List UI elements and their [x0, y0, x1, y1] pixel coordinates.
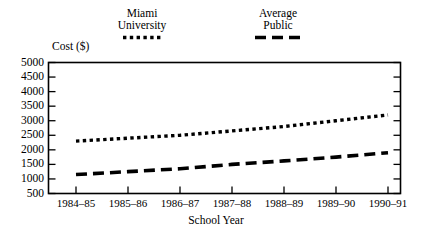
y-tick-label-3500: 3500	[4, 100, 44, 112]
plot-area: 500100015002000250030003500400045005000 …	[0, 0, 432, 236]
y-tick-label-4500: 4500	[4, 71, 44, 83]
y-tick-label-5000: 5000	[4, 57, 44, 69]
y-tick-label-1000: 1000	[4, 173, 44, 185]
x-axis-ticks	[76, 187, 388, 194]
series-line-average-public	[76, 153, 388, 175]
y-tick-label-4000: 4000	[4, 86, 44, 98]
y-tick-label-500: 500	[4, 188, 44, 200]
x-axis-title: School Year	[0, 214, 432, 226]
series-line-miami-university	[76, 115, 388, 141]
y-tick-label-1500: 1500	[4, 158, 44, 170]
y-tick-label-2000: 2000	[4, 144, 44, 156]
y-tick-label-2500: 2500	[4, 129, 44, 141]
cost-line-chart-figure: Miami University Average Public Cost ($)…	[0, 0, 432, 236]
y-tick-label-3000: 3000	[4, 115, 44, 127]
x-tick-label-6: 1990–91	[357, 198, 419, 209]
series-lines-group	[76, 115, 388, 175]
